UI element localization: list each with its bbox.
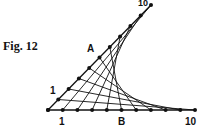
label-base-10: 10 bbox=[185, 116, 197, 127]
dots bbox=[46, 3, 197, 112]
label-A: A bbox=[87, 43, 94, 54]
figure-caption: Fig. 12 bbox=[3, 39, 38, 53]
label-diag-1: 1 bbox=[50, 85, 56, 96]
envelope-lines bbox=[58, 5, 195, 110]
label-top-10: 10 bbox=[138, 0, 148, 8]
label-base-1: 1 bbox=[59, 116, 65, 127]
label-B: B bbox=[118, 116, 125, 127]
string-art-figure: Fig. 12 10 A 1 1 B 10 bbox=[0, 0, 205, 130]
